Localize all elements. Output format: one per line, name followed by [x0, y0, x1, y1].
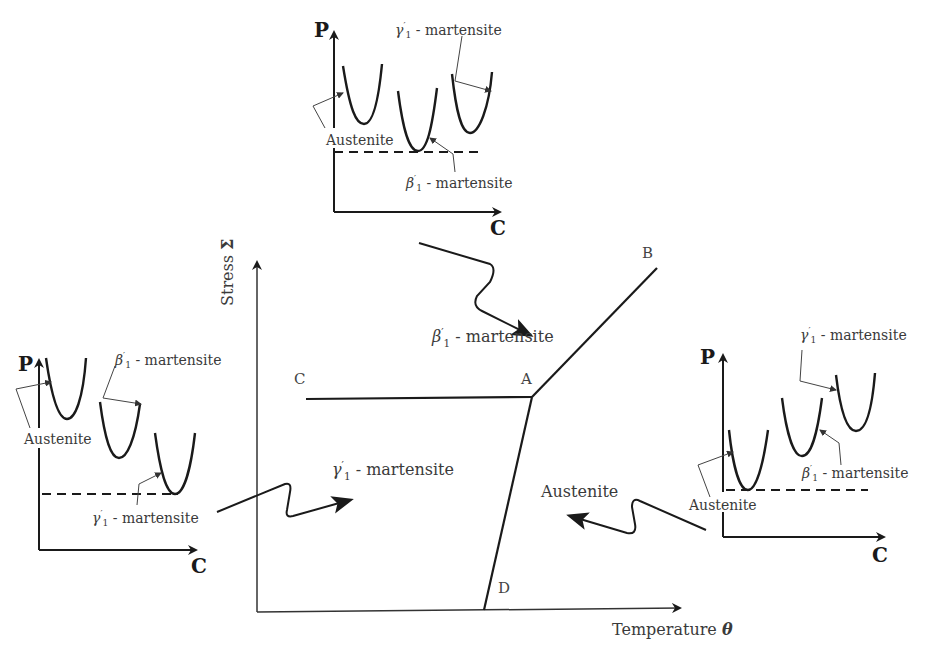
temperature-axis-label: Temperature θ — [612, 622, 733, 638]
left-panel-p-label: P — [18, 354, 33, 374]
left-beta-leader — [103, 366, 141, 404]
top-beta-leader — [430, 138, 455, 172]
left-austenite-well — [46, 358, 86, 419]
top-panel-beta-label: β′1 - martensite — [406, 175, 512, 194]
left-gamma-well — [155, 433, 195, 494]
diagram-graphics — [0, 0, 929, 648]
region-label-beta-martensite: β′1 - martensite — [432, 327, 554, 348]
main-axes — [257, 262, 680, 612]
point-label-A: A — [521, 372, 532, 387]
top-panel-austenite-label: Austenite — [326, 133, 394, 147]
boundary-C-A — [306, 397, 532, 399]
point-label-D: D — [498, 581, 510, 596]
left-austenite-leader — [16, 382, 51, 428]
squiggle-arrow-to-beta — [419, 243, 530, 335]
stress-axis-label: Stress Σ — [220, 239, 236, 306]
right-panel-austenite-label: Austenite — [689, 498, 757, 512]
top-austenite-leader — [313, 93, 343, 128]
top-austenite-well — [343, 64, 382, 124]
right-austenite-well — [729, 430, 768, 490]
right-beta-well — [782, 398, 822, 456]
left-gamma-leader — [137, 473, 161, 505]
right-panel-gamma-label: γ′1 - martensite — [800, 327, 907, 346]
left-panel-austenite-label: Austenite — [24, 432, 92, 446]
left-panel-gamma-label: γ′1 - martensite — [92, 510, 199, 529]
left-panel-c-label: C — [191, 556, 207, 576]
top-panel-c-label: C — [490, 218, 506, 238]
point-label-B: B — [642, 246, 653, 261]
region-label-gamma-martensite: γ′1 - martensite — [332, 460, 454, 481]
region-label-austenite: Austenite — [541, 484, 618, 500]
squiggle-arrow-to-gamma — [217, 484, 350, 517]
phase-diagram-figure: Stress Σ Temperature θ C A B D β′1 - mar… — [0, 0, 929, 648]
right-gamma-well — [836, 373, 875, 431]
left-panel-beta-label: β′1 - martensite — [115, 352, 221, 371]
phase-boundaries — [306, 268, 657, 610]
top-gamma-well — [452, 72, 492, 133]
top-panel-p-label: P — [314, 20, 329, 40]
top-panel-gamma-label: γ′1 - martensite — [395, 22, 502, 41]
right-gamma-leader — [800, 350, 836, 390]
left-beta-well — [100, 402, 140, 458]
right-panel-c-label: C — [872, 545, 888, 565]
point-label-C: C — [294, 372, 305, 387]
top-beta-well — [398, 88, 437, 151]
squiggle-arrow-to-austenite — [570, 500, 706, 533]
temperature-axis — [257, 608, 680, 612]
right-panel-p-label: P — [700, 347, 715, 367]
right-beta-leader — [820, 430, 841, 465]
right-panel-beta-label: β′1 - martensite — [802, 465, 908, 484]
top-gamma-leader — [455, 36, 491, 91]
